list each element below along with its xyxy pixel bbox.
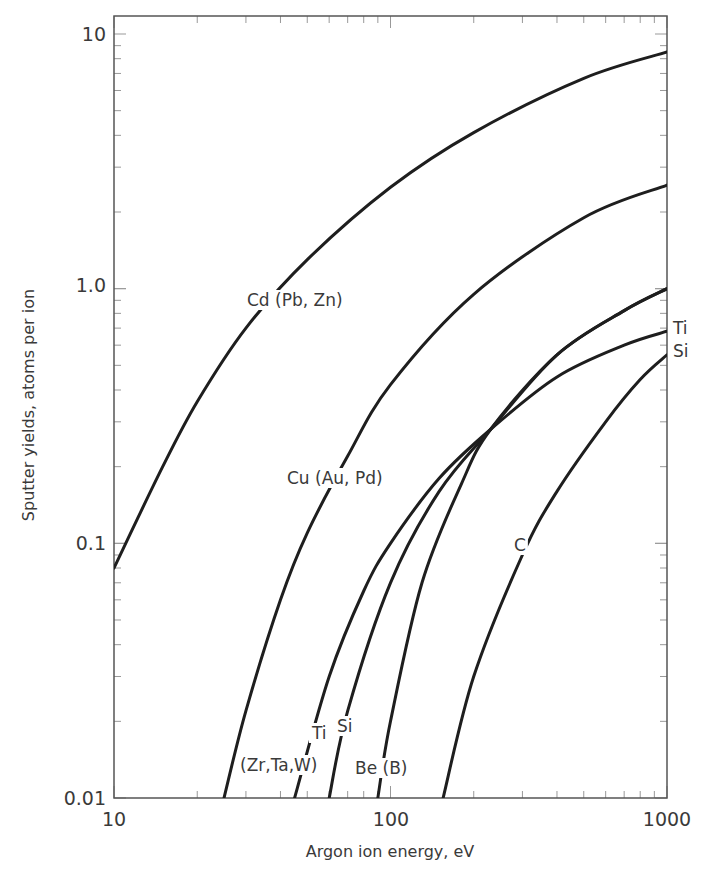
y-tick-label-10: 10 [82, 23, 106, 45]
curve-label: Si [337, 716, 353, 736]
curve-label: Si [673, 341, 689, 361]
y-tick-label-1: 1.0 [76, 274, 106, 296]
sputter-yield-chart: Cd (Pb, Zn)Cu (Au, Pd)TiSi(Zr,Ta,W)Be (B… [0, 0, 718, 878]
x-tick-label-1000: 1000 [643, 808, 691, 830]
curve-label: Ti [672, 318, 688, 338]
curve-label: (Zr,Ta,W) [240, 755, 318, 775]
curve-label: Be (B) [355, 758, 407, 778]
curve-si [329, 289, 667, 798]
curve-label: Cd (Pb, Zn) [247, 290, 343, 310]
curve-label: Cu (Au, Pd) [287, 468, 383, 488]
plot-frame [114, 16, 667, 798]
curve-cd [114, 52, 667, 568]
minor-ticks [114, 16, 667, 798]
y-tick-label-0.1: 0.1 [76, 532, 106, 554]
curves [114, 52, 667, 798]
x-axis-title: Argon ion energy, eV [306, 842, 475, 861]
x-tick-label-10: 10 [102, 808, 126, 830]
y-tick-label-0.01: 0.01 [64, 787, 106, 809]
curve-c [443, 355, 667, 798]
x-tick-label-100: 100 [373, 808, 409, 830]
y-axis-title: Sputter yields, atoms per ion [19, 289, 38, 521]
curve-label: Ti [311, 723, 327, 743]
curve-label: C [514, 535, 526, 555]
